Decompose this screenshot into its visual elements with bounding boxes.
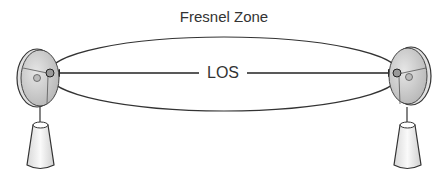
- diagram-title: Fresnel Zone: [0, 8, 448, 25]
- right-antenna: [389, 47, 431, 169]
- los-label: LOS: [199, 63, 247, 83]
- left-antenna: [17, 49, 59, 169]
- diagram-canvas: [0, 0, 448, 179]
